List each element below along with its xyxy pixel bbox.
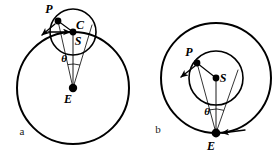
- label-S-b: S: [220, 71, 227, 85]
- diagram-canvas: θPCSEa θPSEb: [0, 0, 280, 155]
- label-P-a: P: [45, 2, 53, 16]
- theta-label-b: θ: [204, 105, 210, 117]
- label-C-a: C: [76, 18, 85, 32]
- label-E-a: E: [63, 92, 72, 106]
- panel-letter-a: a: [20, 125, 25, 137]
- theta-arc-a: [68, 64, 80, 65]
- tangent-arrow-at-P-a: [42, 24, 55, 35]
- point-E-b: [212, 129, 221, 138]
- figure-container: θPCSEa θPSEb: [0, 0, 280, 155]
- panel-letter-b: b: [155, 123, 161, 135]
- point-S-b: [213, 75, 220, 82]
- tangent-arrow-at-P-b: [181, 66, 195, 77]
- label-P-b: P: [185, 45, 193, 59]
- label-E-b: E: [206, 139, 215, 153]
- line-E-to-P-b: [197, 63, 216, 133]
- theta-label-a: θ: [61, 52, 67, 64]
- point-P-a: [55, 18, 62, 25]
- panel-b: θPSEb: [155, 23, 271, 153]
- label-S-a: S: [75, 34, 82, 48]
- point-P-b: [194, 60, 201, 67]
- panel-a: θPCSEa: [17, 2, 129, 144]
- line-S-to-P-b: [197, 63, 216, 78]
- point-E-a: [69, 84, 77, 92]
- theta-arc-b: [210, 109, 224, 110]
